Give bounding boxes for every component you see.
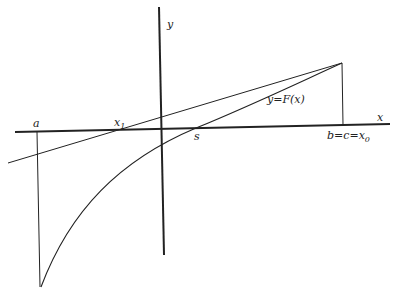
point-s-label: s: [194, 130, 200, 143]
curve-label: y=F(x): [266, 93, 305, 106]
point-x1-label: x1: [114, 116, 125, 131]
secant-method-diagram: y x y=F(x) a x1 s b=c=x0: [0, 0, 397, 294]
y-axis: [159, 7, 164, 255]
vertical-line-at-b: [342, 63, 343, 125]
point-a-label: a: [33, 117, 40, 130]
secant-line: [8, 63, 342, 163]
vertical-line-at-a: [37, 132, 40, 287]
x-axis-label: x: [377, 111, 384, 124]
y-axis-label: y: [166, 18, 174, 31]
point-b-c-x0-label: b=c=x0: [327, 129, 370, 144]
